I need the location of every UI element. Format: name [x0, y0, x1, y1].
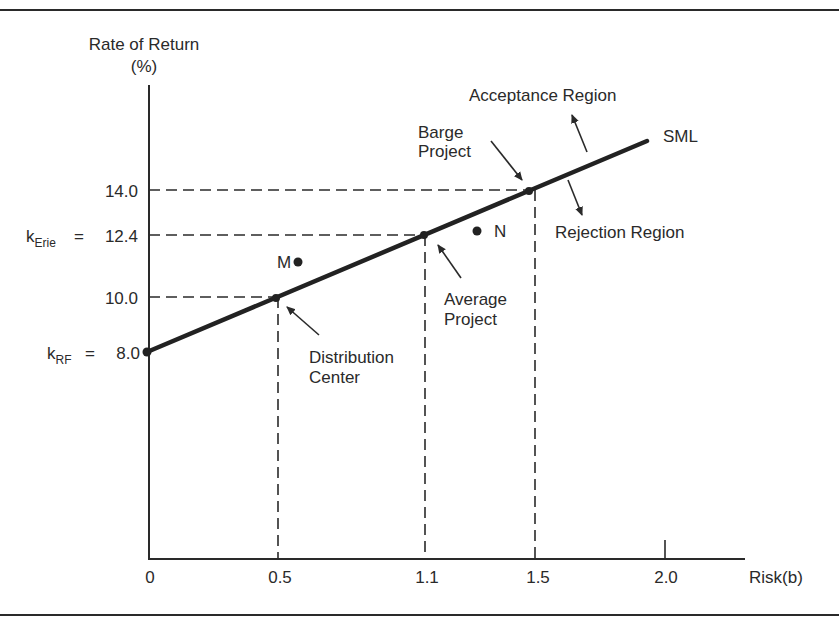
- distribution-center-label-2: Center: [309, 368, 360, 387]
- y-tick-8: 8.0: [116, 344, 140, 363]
- sml-line: [147, 141, 647, 352]
- x-tick-2: 2.0: [654, 568, 678, 587]
- point-n: [473, 227, 482, 236]
- k-erie-equals: =: [74, 227, 84, 246]
- k-rf-equals: =: [85, 344, 95, 363]
- average-project-label-1: Average: [444, 290, 507, 309]
- average-project-label-2: Project: [444, 310, 497, 329]
- y-tick-10: 10.0: [105, 289, 138, 308]
- point-m: [294, 258, 303, 267]
- barge-project-label-2: Project: [418, 142, 471, 161]
- x-tick-0-5: 0.5: [268, 568, 292, 587]
- y-tick-14: 14.0: [105, 182, 138, 201]
- x-tick-0: 0: [145, 568, 154, 587]
- point-krf: [143, 348, 152, 357]
- y-axis-title: Rate of Return: [89, 35, 200, 54]
- x-axis-title: Risk(b): [749, 568, 803, 587]
- distribution-center-label-1: Distribution: [309, 348, 394, 367]
- x-tick-1-5: 1.5: [526, 568, 550, 587]
- point-distribution-center: [272, 294, 280, 302]
- k-erie-label: kErie: [26, 227, 56, 250]
- barge-project-label-1: Barge: [418, 123, 463, 142]
- acceptance-region-label: Acceptance Region: [469, 86, 616, 105]
- sml-label: SML: [663, 127, 698, 146]
- sml-chart: Rate of Return (%) 14.0 12.4 10.0 8.0 kE…: [0, 0, 839, 621]
- point-n-label: N: [494, 222, 506, 241]
- y-tick-12-4: 12.4: [105, 227, 138, 246]
- x-tick-1-1: 1.1: [415, 568, 439, 587]
- y-axis-unit: (%): [131, 57, 157, 76]
- point-barge-project: [525, 187, 533, 195]
- k-rf-label: kRF: [47, 344, 72, 367]
- point-m-label: M: [277, 253, 291, 272]
- rejection-region-label: Rejection Region: [555, 223, 684, 242]
- point-average-project: [420, 231, 428, 239]
